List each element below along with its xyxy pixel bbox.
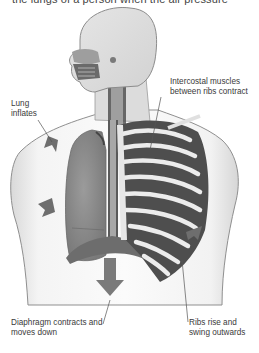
head [70, 7, 157, 92]
label-diaphragm: Diaphragm contracts and moves down [11, 318, 121, 338]
label-lung-inflates: Lung inflates [11, 99, 51, 119]
label-ribs: Ribs rise and swing outwards [189, 318, 259, 338]
label-intercostal-muscles: Intercostal muscles between ribs contrac… [170, 77, 259, 97]
anatomy-figure [0, 0, 259, 353]
trachea [108, 120, 118, 238]
